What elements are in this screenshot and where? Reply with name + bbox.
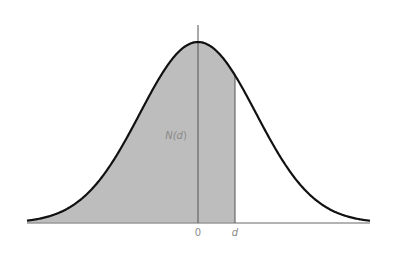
- shaded-area-n-of-d: [27, 42, 235, 223]
- tick-label-d: d: [232, 227, 239, 238]
- area-label-n-of-d: N(d): [165, 130, 187, 141]
- normal-distribution-chart: N(d) 0 d: [0, 0, 397, 260]
- tick-label-zero: 0: [195, 227, 201, 238]
